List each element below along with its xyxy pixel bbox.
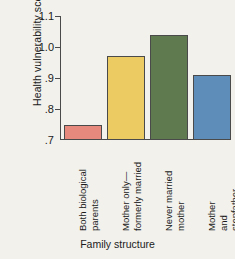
bar [107,56,145,140]
bar-chart-figure: Health vulnerability score .7.8.91.01.1 … [0,0,235,259]
y-axis-tick-label: .8 [28,104,54,115]
x-axis-category-label: Mother and stepfather [206,189,235,231]
bar [150,35,188,140]
y-axis-tick-label: 1.1 [28,11,54,22]
bar [64,125,102,141]
y-axis-tick-mark [55,78,61,79]
plot-area [60,16,231,140]
x-axis-category-label: Mother only— formerly married [120,162,143,231]
y-axis-tick-label: 1.0 [28,42,54,53]
bar [193,75,231,140]
x-axis-category-labels: Both biological parentsMother only— form… [60,141,231,233]
y-axis-tick-mark [55,109,61,110]
y-axis-tick-label: .7 [28,135,54,146]
x-axis-category-label: Both biological parents [77,169,100,231]
y-axis-tick-label: .9 [28,73,54,84]
x-axis-title: Family structure [0,238,235,250]
y-axis-tick-labels: .7.8.91.01.1 [26,0,54,259]
x-axis-category-label: Never married mother [163,171,186,231]
y-axis-tick-mark [55,16,61,17]
y-axis-tick-mark [55,47,61,48]
